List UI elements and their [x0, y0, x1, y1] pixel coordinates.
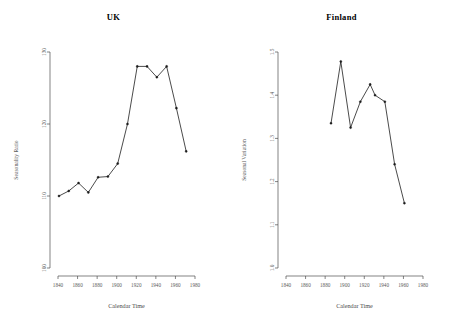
- x-tick-label-uk: 1920: [131, 282, 142, 288]
- data-point: [369, 83, 371, 85]
- data-point: [87, 191, 89, 193]
- panel-finland: Finland 1.01.11.21.31.41.518401860188019…: [228, 0, 455, 323]
- data-point: [117, 163, 119, 165]
- data-point: [350, 127, 352, 129]
- x-tick-label-finland: 1840: [281, 282, 292, 288]
- data-point: [58, 195, 60, 197]
- y-axis-title-finland: Seasonal Variation: [241, 139, 247, 181]
- y-tick-label-finland: 1.3: [269, 135, 275, 142]
- x-tick-label-uk: 1940: [151, 282, 162, 288]
- x-tick-label-finland: 1960: [398, 282, 409, 288]
- data-point: [156, 76, 158, 78]
- y-tick-label-finland: 1.5: [269, 48, 275, 55]
- y-tick-label-uk: 100: [41, 264, 47, 272]
- data-point: [403, 202, 405, 204]
- x-tick-label-finland: 1980: [418, 282, 429, 288]
- x-tick-label-uk: 1980: [190, 282, 201, 288]
- x-tick-label-finland: 1860: [300, 282, 311, 288]
- y-tick-label-uk: 130: [41, 48, 47, 56]
- x-tick-label-uk: 1960: [170, 282, 181, 288]
- x-tick-label-finland: 1900: [340, 282, 351, 288]
- data-point: [340, 60, 342, 62]
- x-axis-title-finland: Calendar Time: [336, 302, 373, 309]
- data-point: [68, 190, 70, 192]
- data-point: [359, 101, 361, 103]
- data-point: [374, 94, 376, 96]
- y-tick-label-finland: 1.1: [269, 221, 275, 228]
- y-tick-label-finland: 1.0: [269, 264, 275, 271]
- series-line-finland: [331, 62, 404, 204]
- y-tick-label-uk: 110: [41, 192, 47, 200]
- y-tick-label-uk: 120: [41, 120, 47, 128]
- x-tick-label-uk: 1840: [53, 282, 64, 288]
- data-point: [146, 65, 148, 67]
- x-tick-label-uk: 1880: [92, 282, 103, 288]
- data-point: [166, 65, 168, 67]
- data-point: [78, 182, 80, 184]
- x-tick-label-finland: 1940: [379, 282, 390, 288]
- y-tick-label-finland: 1.4: [269, 92, 275, 99]
- plot-area-uk: 1001101201301840186018801900192019401960…: [0, 0, 227, 323]
- data-point: [136, 65, 138, 67]
- data-point: [97, 176, 99, 178]
- data-point: [394, 163, 396, 165]
- data-point: [185, 150, 187, 152]
- data-point: [330, 122, 332, 124]
- data-point: [126, 123, 128, 125]
- x-tick-label-uk: 1860: [72, 282, 83, 288]
- series-line-uk: [59, 66, 186, 196]
- y-axis-title-uk: Seasonality Ratio: [13, 140, 19, 180]
- figure-canvas: UK 1001101201301840186018801900192019401…: [0, 0, 455, 323]
- data-point: [107, 176, 109, 178]
- plot-area-finland: 1.01.11.21.31.41.51840186018801900192019…: [228, 0, 455, 323]
- data-point: [175, 107, 177, 109]
- x-tick-label-uk: 1900: [112, 282, 123, 288]
- x-axis-title-uk: Calendar Time: [108, 302, 145, 309]
- x-tick-label-finland: 1880: [320, 282, 331, 288]
- x-tick-label-finland: 1920: [359, 282, 370, 288]
- y-tick-label-finland: 1.2: [269, 178, 275, 185]
- panel-uk: UK 1001101201301840186018801900192019401…: [0, 0, 227, 323]
- data-point: [384, 101, 386, 103]
